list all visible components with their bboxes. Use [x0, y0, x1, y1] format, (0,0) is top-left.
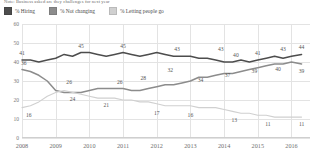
- y-tick-label: 0: [16, 135, 19, 141]
- series-line-letting-people-go: [22, 91, 302, 118]
- y-tick-label: 50: [13, 40, 19, 46]
- x-tick-label: 2016: [285, 142, 297, 149]
- chart-legend: % Hiring% Not changing% Letting people g…: [4, 7, 178, 15]
- series-line-not-changing: [22, 62, 302, 92]
- legend-label-not_changing: % Not changing: [60, 7, 95, 15]
- legend-swatch-letting_go: [109, 7, 117, 15]
- y-tick-label: 30: [13, 78, 19, 84]
- series-lines: [22, 24, 310, 138]
- x-tick-label: 2010: [83, 142, 95, 149]
- x-tick-label: 2012: [151, 142, 163, 149]
- legend-item-not_changing[interactable]: % Not changing: [49, 7, 95, 15]
- chart-container: Note: Business asked are they challenges…: [0, 0, 318, 160]
- gridline-y-0: [22, 138, 310, 139]
- plot-area: 4145454343404143443626242628323437394039…: [22, 24, 310, 138]
- y-tick-label: 60: [13, 21, 19, 27]
- x-tick-label: 2009: [49, 142, 61, 149]
- legend-swatch-hiring: [4, 7, 12, 15]
- x-tick-label: 2008: [16, 142, 28, 149]
- x-tick-label: 2013: [184, 142, 196, 149]
- chart-note-title: Note: Business asked are they challenges…: [4, 0, 110, 5]
- x-tick-label: 2014: [218, 142, 230, 149]
- legend-label-hiring: % Hiring: [15, 7, 35, 15]
- y-tick-label: 40: [13, 59, 19, 65]
- legend-swatch-not_changing: [49, 7, 57, 15]
- series-line-hiring: [22, 53, 302, 63]
- x-tick-label: 2011: [117, 142, 129, 149]
- y-tick-label: 10: [13, 116, 19, 122]
- y-tick-label: 20: [13, 97, 19, 103]
- x-tick-label: 2015: [252, 142, 264, 149]
- legend-label-letting_go: % Letting people go: [120, 7, 164, 15]
- legend-item-hiring[interactable]: % Hiring: [4, 7, 35, 15]
- legend-item-letting_go[interactable]: % Letting people go: [109, 7, 164, 15]
